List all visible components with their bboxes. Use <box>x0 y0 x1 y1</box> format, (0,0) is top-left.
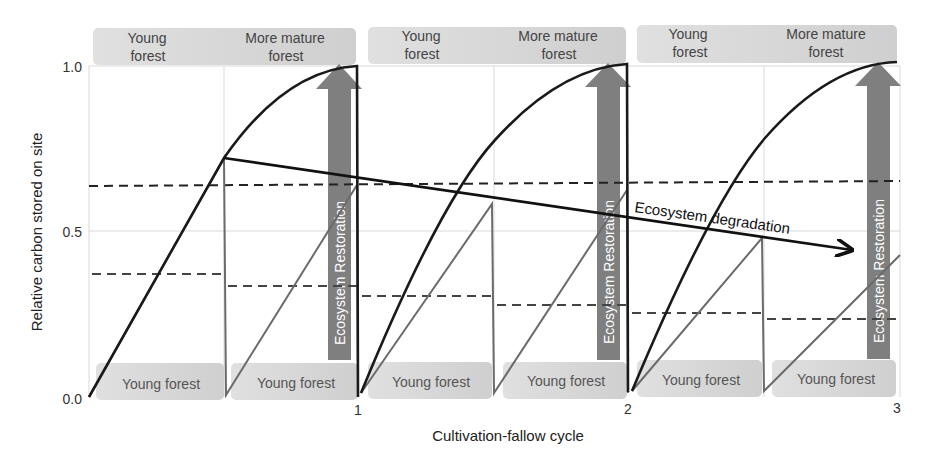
y-tick-05: 0.5 <box>63 224 83 240</box>
banner-young-line2: forest <box>130 48 165 64</box>
bottom-young-forest-3: Young forest <box>392 374 470 390</box>
y-axis-label: Relative carbon stored on site <box>28 133 45 331</box>
restoration-arrow-3: Ecosystem Restoration <box>855 62 901 359</box>
restoration-arrows: Ecosystem Restoration Ecosystem Restorat… <box>316 62 901 360</box>
banner-mature-line1: More mature <box>245 30 325 46</box>
y-tick-1: 1.0 <box>63 59 83 75</box>
banner-mature-line2: forest <box>541 46 576 62</box>
x-tick-1: 1 <box>354 402 362 418</box>
bottom-young-forest-6: Young forest <box>797 371 875 387</box>
x-axis-label: Cultivation-fallow cycle <box>432 427 584 444</box>
x-tick-3: 3 <box>893 400 901 416</box>
top-banners: Young forest More mature forest Young fo… <box>93 25 897 65</box>
banner-young-line1: Young <box>401 28 440 44</box>
bottom-young-forest-5: Young forest <box>662 372 740 388</box>
banner-young-line2: forest <box>404 46 439 62</box>
banner-young-line1: Young <box>127 30 166 46</box>
banner-mature-line1: More mature <box>518 28 598 44</box>
x-tick-2: 2 <box>624 401 632 417</box>
y-axis: 1.0 0.5 0.0 Relative carbon stored on si… <box>28 59 82 407</box>
banner-young-line2: forest <box>672 44 707 60</box>
banner-young-line1: Young <box>668 26 707 42</box>
banner-mature-line2: forest <box>808 44 843 60</box>
x-axis: 1 2 3 Cultivation-fallow cycle <box>354 400 901 444</box>
degradation-arrow: Ecosystem degradation <box>224 158 852 250</box>
carbon-cycle-diagram: Young forest More mature forest Young fo… <box>0 0 930 468</box>
bottom-young-forest-4: Young forest <box>527 373 605 389</box>
y-tick-0: 0.0 <box>63 391 83 407</box>
banner-mature-line2: forest <box>268 48 303 64</box>
bottom-young-forest-1: Young forest <box>122 376 200 392</box>
banner-mature-line1: More mature <box>786 26 866 42</box>
bottom-young-forest-2: Young forest <box>257 375 335 391</box>
svg-text:Ecosystem Restoration: Ecosystem Restoration <box>601 200 617 344</box>
